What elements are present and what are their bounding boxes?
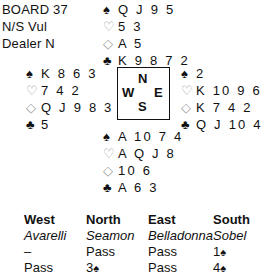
- north-diamonds: ◇A 5: [103, 35, 190, 52]
- board-number: BOARD 37: [2, 1, 68, 18]
- west-clubs: ♣5: [26, 116, 114, 133]
- north-hand: ♠Q J 9 5 ♡5 3 ◇A 5 ♣K 9 8 7 2: [103, 1, 190, 69]
- west-hand: ♠K 8 6 3 ♡7 4 2 ◇Q J 9 8 3 ♣5: [26, 65, 114, 133]
- compass-north: N: [138, 71, 147, 86]
- north-hearts: ♡5 3: [103, 18, 190, 35]
- auction-players: Avarelli Seamon Belladonna Sobel: [24, 228, 250, 244]
- south-spades: ♠A 10 7 4: [103, 128, 183, 145]
- auction-round: Pass 3♠ Pass 4♠: [24, 260, 250, 276]
- south-hand: ♠A 10 7 4 ♡A Q J 8 ◇10 6 ♣A 6 3: [103, 128, 183, 196]
- player-south: Sobel: [213, 228, 250, 244]
- spade-icon: ♠: [93, 262, 99, 274]
- bid: 3♠: [86, 260, 148, 276]
- spade-icon: ♠: [103, 1, 118, 18]
- club-icon: ♣: [103, 179, 118, 196]
- diamond-icon: ◇: [181, 99, 196, 116]
- heart-icon: ♡: [181, 82, 196, 99]
- compass-south: S: [138, 99, 147, 114]
- diamond-icon: ◇: [103, 162, 118, 179]
- west-hearts: ♡7 4 2: [26, 82, 114, 99]
- south-diamonds: ◇10 6: [103, 162, 183, 179]
- dealer: Dealer N: [2, 35, 68, 52]
- bid: Pass: [148, 244, 213, 260]
- player-north: Seamon: [86, 228, 148, 244]
- header-east: East: [148, 211, 213, 228]
- north-spades: ♠Q J 9 5: [103, 1, 190, 18]
- bid: Pass: [86, 244, 148, 260]
- east-hearts: ♡K 10 9 6: [181, 82, 263, 99]
- east-clubs: ♣Q J 10 4: [181, 116, 263, 133]
- compass-box: N W E S: [117, 67, 170, 120]
- auction-round: – Pass Pass 1♠: [24, 244, 250, 260]
- bid: 4♠: [213, 260, 250, 276]
- south-clubs: ♣A 6 3: [103, 179, 183, 196]
- bid: Pass: [148, 260, 213, 276]
- compass-west: W: [122, 85, 134, 100]
- board-info: BOARD 37 N/S Vul Dealer N: [2, 1, 68, 52]
- east-spades: ♠2: [181, 65, 263, 82]
- spade-icon: ♠: [103, 128, 118, 145]
- spade-icon: ♠: [181, 65, 196, 82]
- diamond-icon: ◇: [26, 99, 41, 116]
- spade-icon: ♠: [220, 262, 226, 274]
- south-hearts: ♡A Q J 8: [103, 145, 183, 162]
- east-hand: ♠2 ♡K 10 9 6 ◇K 7 4 2 ♣Q J 10 4: [181, 65, 263, 133]
- bid: –: [24, 244, 86, 260]
- west-spades: ♠K 8 6 3: [26, 65, 114, 82]
- header-west: West: [24, 211, 86, 228]
- compass-east: E: [154, 85, 163, 100]
- auction-table: West North East South Avarelli Seamon Be…: [24, 211, 250, 276]
- spade-icon: ♠: [26, 65, 41, 82]
- east-diamonds: ◇K 7 4 2: [181, 99, 263, 116]
- header-south: South: [213, 211, 250, 228]
- heart-icon: ♡: [103, 145, 118, 162]
- header-north: North: [86, 211, 148, 228]
- west-diamonds: ◇Q J 9 8 3: [26, 99, 114, 116]
- diamond-icon: ◇: [103, 35, 118, 52]
- heart-icon: ♡: [26, 82, 41, 99]
- spade-icon: ♠: [220, 246, 226, 258]
- bid: 1♠: [213, 244, 250, 260]
- vulnerability: N/S Vul: [2, 18, 68, 35]
- auction-header: West North East South: [24, 211, 250, 228]
- heart-icon: ♡: [103, 18, 118, 35]
- club-icon: ♣: [26, 116, 41, 133]
- player-east: Belladonna: [148, 228, 213, 244]
- bid: Pass: [24, 260, 86, 276]
- player-west: Avarelli: [24, 228, 86, 244]
